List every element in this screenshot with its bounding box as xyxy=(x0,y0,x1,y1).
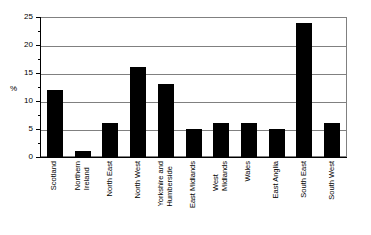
bar xyxy=(75,151,91,157)
x-tick-label: Wales xyxy=(244,161,253,182)
bar xyxy=(324,123,340,157)
bar xyxy=(241,123,257,157)
bar xyxy=(130,67,146,157)
y-tick-label: 0 xyxy=(11,153,33,161)
x-tick-label: Scotland xyxy=(50,161,59,190)
bar-series xyxy=(41,17,346,157)
x-tick-label: Yorkshire and Humberside xyxy=(157,161,174,207)
y-tick-label: 25 xyxy=(11,13,33,21)
x-tick-label: Northern Ireland xyxy=(74,161,91,190)
x-axis-line xyxy=(40,157,347,158)
x-tick-label: East Anglia xyxy=(272,161,281,199)
bar xyxy=(47,90,63,157)
bar xyxy=(158,84,174,157)
bar xyxy=(269,129,285,157)
x-tick-label: South East xyxy=(300,161,309,198)
bar-chart: % 0510152025 ScotlandNorthern IrelandNor… xyxy=(0,0,371,235)
x-tick-label: South West xyxy=(328,161,337,200)
y-tick-label: 10 xyxy=(11,97,33,105)
y-tick-label: 15 xyxy=(11,69,33,77)
x-tick-label: North East xyxy=(106,161,115,196)
x-tick-label: West Midlands xyxy=(212,161,229,191)
y-tick-label: 20 xyxy=(11,41,33,49)
bar xyxy=(296,23,312,157)
bar xyxy=(186,129,202,157)
bar xyxy=(102,123,118,157)
y-tick-label: 5 xyxy=(11,125,33,133)
bar xyxy=(213,123,229,157)
x-tick-label: North West xyxy=(134,161,143,198)
x-tick-label: East Midlands xyxy=(189,161,198,208)
y-axis-title: % xyxy=(10,84,17,94)
